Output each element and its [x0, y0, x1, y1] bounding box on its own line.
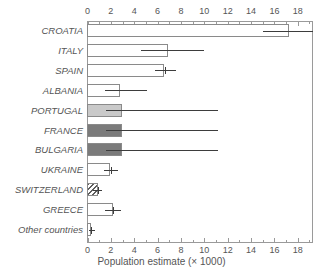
category-label-croatia: CROATIA	[41, 25, 83, 36]
axis-tick-bottom-8	[181, 238, 182, 243]
category-label-greece: GREECE	[43, 204, 83, 215]
axis-tick-bottom-1	[99, 240, 100, 243]
axis-tick-label-top-2: 2	[99, 6, 123, 16]
axis-tick-bottom-15	[263, 240, 264, 243]
category-label-bulgaria: BULGARIA	[35, 144, 83, 155]
axis-tick-label-top-14: 14	[239, 6, 263, 16]
axis-tick-bottom-6	[158, 238, 159, 243]
error-bar-croatia	[263, 31, 313, 32]
axis-tick-bottom-12	[228, 238, 229, 243]
axis-tick-label-top-16: 16	[262, 6, 286, 16]
x-axis-title: Population estimate (× 1000)	[0, 256, 323, 267]
axis-tick-bottom-19	[309, 240, 310, 243]
error-bar-bulgaria	[106, 150, 218, 151]
axis-tick-bottom-14	[251, 238, 252, 243]
error-bar-albania	[105, 90, 147, 91]
axis-tick-bottom-5	[146, 240, 147, 243]
axis-tick-label-top-18: 18	[286, 6, 310, 16]
error-bar-cap	[111, 167, 112, 174]
axis-tick-label-bottom-6: 6	[146, 245, 170, 255]
axis-tick-label-bottom-14: 14	[239, 245, 263, 255]
category-label-other-countries: Other countries	[18, 224, 83, 235]
error-bar-france	[106, 130, 218, 131]
axis-tick-bottom-4	[134, 238, 135, 243]
axis-tick-label-bottom-16: 16	[262, 245, 286, 255]
axis-tick-label-top-12: 12	[216, 6, 240, 16]
axis-tick-bottom-11	[216, 240, 217, 243]
category-label-portugal: PORTUGAL	[31, 105, 83, 116]
axis-tick-top-19	[309, 21, 310, 24]
axis-tick-label-bottom-2: 2	[99, 245, 123, 255]
axis-tick-label-top-4: 4	[122, 6, 146, 16]
axis-tick-label-bottom-18: 18	[286, 245, 310, 255]
axis-tick-label-top-8: 8	[169, 6, 193, 16]
axis-tick-bottom-13	[239, 240, 240, 243]
bar-spain	[87, 64, 164, 77]
error-bar-cap	[98, 187, 99, 194]
category-label-albania: ALBANIA	[43, 85, 83, 96]
axis-tick-bottom-10	[204, 238, 205, 243]
error-bar-portugal	[106, 110, 218, 111]
error-bar-cap	[113, 207, 114, 214]
axis-tick-top-18	[298, 21, 299, 26]
axis-tick-bottom-9	[193, 240, 194, 243]
axis-tick-label-bottom-12: 12	[216, 245, 240, 255]
axis-tick-label-bottom-4: 4	[122, 245, 146, 255]
axis-tick-bottom-17	[286, 240, 287, 243]
category-label-switzerland: SWITZERLAND	[15, 184, 83, 195]
category-label-italy: ITALY	[58, 45, 83, 56]
bar-croatia	[87, 24, 289, 37]
axis-tick-label-bottom-10: 10	[192, 245, 216, 255]
axis-tick-label-top-6: 6	[146, 6, 170, 16]
axis-tick-bottom-7	[169, 240, 170, 243]
category-label-spain: SPAIN	[55, 65, 83, 76]
error-bar-cap	[91, 227, 92, 234]
chart-container: 002244668810101212141416161818 CROATIAIT…	[0, 0, 323, 274]
error-bar-italy	[141, 50, 204, 51]
category-label-ukraine: UKRAINE	[41, 164, 83, 175]
axis-tick-label-bottom-0: 0	[76, 245, 100, 255]
axis-tick-bottom-0	[88, 238, 89, 243]
axis-tick-bottom-18	[298, 238, 299, 243]
axis-tick-label-top-0: 0	[76, 6, 100, 16]
axis-tick-label-bottom-8: 8	[169, 245, 193, 255]
category-label-france: FRANCE	[44, 125, 83, 136]
axis-tick-bottom-16	[274, 238, 275, 243]
axis-tick-label-top-10: 10	[192, 6, 216, 16]
axis-tick-bottom-3	[123, 240, 124, 243]
axis-tick-bottom-2	[111, 238, 112, 243]
error-bar-cap	[165, 67, 166, 74]
